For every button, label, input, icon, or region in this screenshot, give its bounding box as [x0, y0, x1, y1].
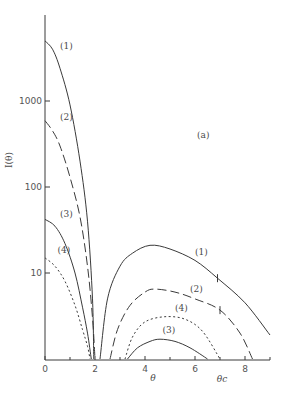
series-line-4 — [125, 317, 220, 359]
chart: 101001000 02468 I(θ) θ θc (a) (1)(1)(2)(… — [0, 0, 283, 398]
panel-label: (a) — [197, 130, 209, 140]
series-label: (1) — [60, 41, 73, 51]
series-label: (4) — [58, 245, 71, 255]
x-tick-label: 8 — [242, 364, 248, 374]
y-tick-label: 10 — [31, 268, 43, 278]
series-label: (1) — [195, 247, 208, 257]
x-tick-label: 4 — [142, 364, 148, 374]
series-labels: (1)(1)(2)(2)(3)(3)(4)(4) — [58, 41, 208, 335]
series-line-3 — [45, 219, 91, 359]
theta-c-annotation: θc — [217, 374, 227, 384]
series-label: (2) — [190, 284, 203, 294]
series-group — [45, 41, 270, 359]
y-axis-label: I(θ) — [4, 152, 14, 168]
x-axis-label: θ — [150, 373, 156, 383]
series-label: (3) — [163, 325, 176, 335]
y-tick-label: 100 — [25, 182, 42, 192]
series-label: (2) — [60, 112, 73, 122]
y-tick-label: 1000 — [19, 96, 42, 106]
x-tick-label: 0 — [42, 364, 48, 374]
series-label: (3) — [60, 209, 73, 219]
axes: 101001000 02468 — [19, 15, 270, 374]
x-ticks: 02468 — [42, 356, 270, 374]
series-line-2 — [45, 121, 95, 359]
series-line-2 — [110, 289, 253, 359]
series-label: (4) — [175, 303, 188, 313]
series-line-1 — [45, 41, 94, 359]
x-tick-label: 6 — [192, 364, 198, 374]
x-tick-label: 2 — [92, 364, 98, 374]
